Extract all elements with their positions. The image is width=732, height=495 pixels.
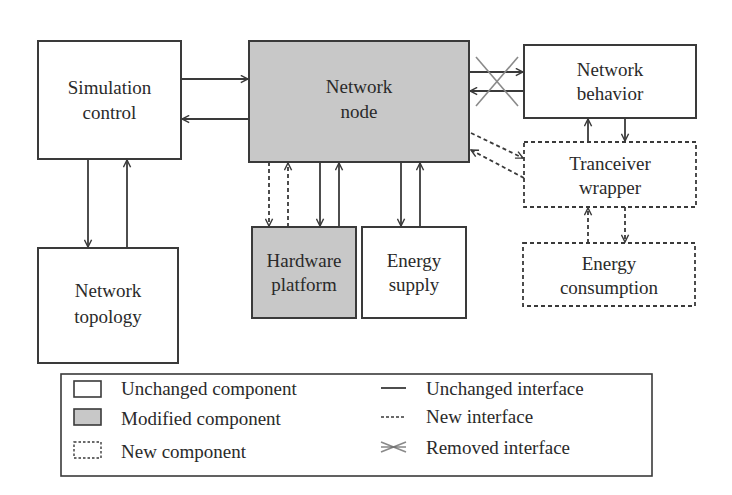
label-line1: Hardware (267, 250, 342, 271)
legend-label-unchanged-interface: Unchanged interface (426, 378, 584, 399)
legend-label-removed-interface: Removed interface (426, 437, 570, 458)
label-line1: Network (326, 76, 393, 97)
architecture-diagram: Simulation control Network node Network … (0, 0, 732, 495)
label-line2: behavior (577, 83, 644, 104)
component-simulation-control: Simulation control (38, 41, 181, 159)
label-line1: Energy (582, 253, 637, 274)
legend: Unchanged component Modified component N… (61, 374, 652, 476)
legend-unchanged-component-icon (74, 381, 101, 397)
component-network-behavior: Network behavior (524, 45, 696, 118)
label-line2: wrapper (579, 177, 642, 198)
component-tranceiver-wrapper: Tranceiver wrapper (524, 142, 696, 207)
label-line1: Network (75, 280, 142, 301)
legend-label-new-component: New component (121, 441, 247, 462)
legend-modified-component-icon (74, 409, 101, 425)
component-energy-supply: Energy supply (362, 227, 466, 318)
label-line1: Tranceiver (569, 153, 651, 174)
label-line1: Simulation (68, 77, 152, 98)
label-line1: Network (577, 59, 644, 80)
label-line2: control (83, 102, 137, 123)
label-line2: consumption (560, 277, 659, 298)
label-line2: topology (74, 306, 142, 327)
label-line2: supply (389, 274, 440, 295)
component-energy-consumption: Energy consumption (523, 243, 695, 306)
component-hardware-platform: Hardware platform (252, 227, 356, 318)
legend-label-unchanged-component: Unchanged component (121, 378, 297, 399)
removed-interface-x-icon (476, 57, 518, 106)
component-network-node: Network node (249, 41, 469, 162)
legend-new-component-icon (74, 442, 101, 458)
label-line1: Energy (387, 250, 442, 271)
legend-label-modified-component: Modified component (121, 408, 282, 429)
label-line2: node (341, 101, 378, 122)
component-network-topology: Network topology (38, 248, 178, 363)
label-line2: platform (271, 274, 337, 295)
legend-label-new-interface: New interface (426, 406, 533, 427)
